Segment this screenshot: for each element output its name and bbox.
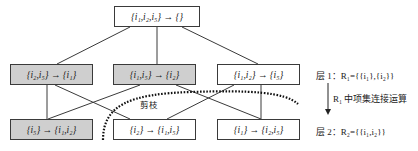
node-level1-b: {i₁,i₅} → {i₂} (113, 64, 196, 85)
layer2-label: 层 2：R₂={{i₁,i₂}} (316, 125, 386, 138)
node-level2-a: {i₅} → {i₁,i₂} (10, 119, 93, 140)
node-level1-c: {i₁,i₂} → {i₅} (217, 64, 300, 85)
layer1-label: 层 1：R₁={{i₁},{i₂}} (316, 69, 394, 82)
arrow-label: R₁ 中项集连接运算 (333, 92, 407, 105)
node-level2-b: {i₂} → {i₁,i₅} (113, 119, 196, 140)
node-root: {i₁,i₂,i₅} → {} (114, 6, 200, 27)
node-level1-a: {i₂,i₅} → {i₁} (10, 64, 93, 85)
prune-label: 剪枝 (140, 98, 158, 110)
arrow-head-icon (325, 109, 331, 115)
node-level2-c: {i₁} → {i₂,i₅} (217, 119, 300, 140)
